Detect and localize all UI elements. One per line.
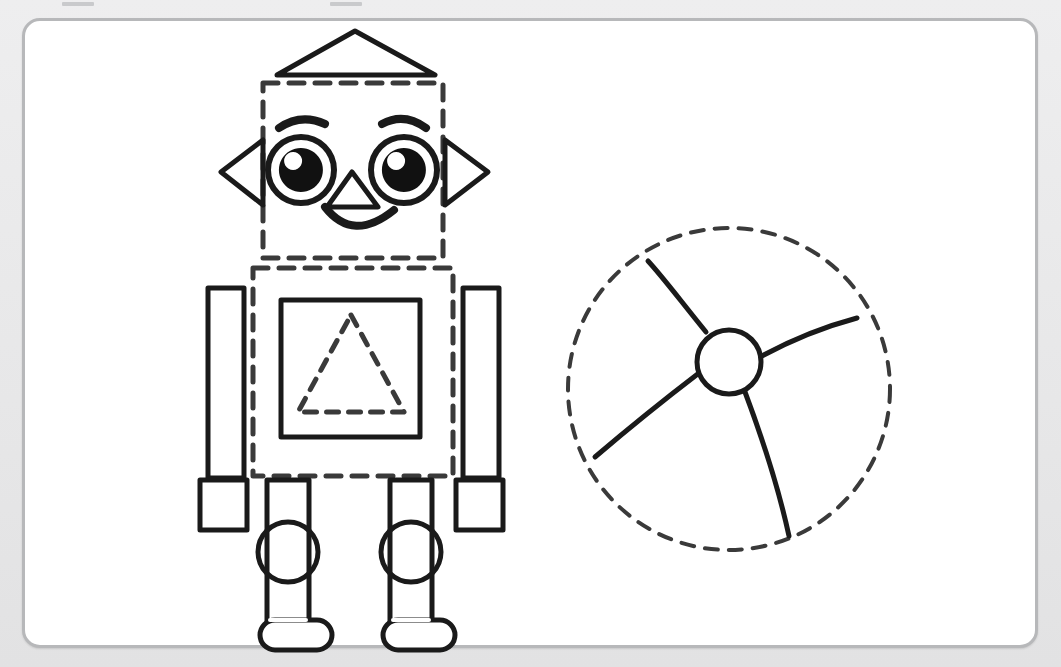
worksheet-page xyxy=(0,0,1061,667)
binder-mark-right xyxy=(330,2,362,6)
binder-mark-left xyxy=(62,2,94,6)
worksheet-card xyxy=(22,18,1038,648)
